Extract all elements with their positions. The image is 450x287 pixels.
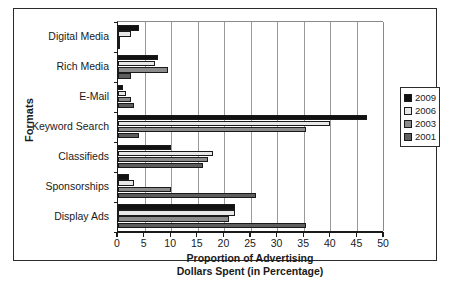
legend-label: 2001 [415,131,436,142]
bar [118,55,158,60]
bar [118,223,306,228]
x-axis-tick-label: 35 [297,237,309,249]
bar [118,187,171,192]
bar [118,91,126,96]
category-label: E-Mail [34,81,113,111]
category-label: Digital Media [34,21,113,51]
x-axis-tick-label: 30 [271,237,283,249]
bar [118,115,367,120]
bar [118,121,330,126]
legend: 2009200620032001 [400,87,440,147]
x-axis-title: Proportion of Advertising Dollars Spent … [117,252,383,277]
x-axis-tick-labels: 05101520253035404550 [117,237,383,251]
bar-group [118,82,383,112]
bar [118,37,120,42]
category-label: Rich Media [34,51,113,81]
x-axis-tick-label: 25 [244,237,256,249]
bar [118,31,131,36]
bar [118,61,155,66]
x-axis-tick-label: 40 [324,237,336,249]
legend-swatch-icon [404,107,412,115]
bar [118,174,129,179]
bar [118,73,131,78]
bar [118,25,139,30]
x-axis-tick-label: 5 [141,237,147,249]
legend-item: 2003 [404,117,436,130]
legend-item: 2001 [404,130,436,143]
bar [118,127,306,132]
legend-swatch-icon [404,133,412,141]
bar [118,204,235,209]
bar-group [118,171,383,201]
category-axis-labels: Digital MediaRich MediaE-MailKeyword Sea… [34,21,113,231]
category-label: Display Ads [34,201,113,231]
x-axis-tick-label: 10 [164,237,176,249]
bar [118,67,168,72]
gridline [383,22,384,231]
bar [118,157,208,162]
legend-swatch-icon [404,120,412,128]
bar [118,133,139,138]
x-axis-tick-label: 15 [191,237,203,249]
bar-groups [118,22,383,231]
bar [118,97,131,102]
bar-group [118,201,383,231]
bar-group [118,52,383,82]
category-label: Keyword Search [34,111,113,141]
x-axis-title-line1: Proportion of Advertising [117,252,383,265]
plot-area [117,21,383,231]
x-axis-tick-label: 20 [218,237,230,249]
category-label: Sponsorships [34,171,113,201]
bar [118,151,213,156]
x-axis-title-line2: Dollars Spent (in Percentage) [117,265,383,278]
bar-group [118,22,383,52]
legend-label: 2003 [415,118,436,129]
bar-group [118,112,383,142]
legend-label: 2009 [415,92,436,103]
bar [118,145,171,150]
bar [118,210,235,215]
bar [118,180,134,185]
legend-swatch-icon [404,94,412,102]
bar [118,216,229,221]
category-label: Classifieds [34,141,113,171]
bar [118,163,203,168]
x-axis-tick-label: 0 [114,237,120,249]
x-axis-tick-label: 50 [377,237,389,249]
x-axis-tick-label: 45 [351,237,363,249]
bar-group [118,141,383,171]
bar [118,43,120,48]
bar [118,193,256,198]
legend-item: 2009 [404,91,436,104]
legend-item: 2006 [404,104,436,117]
bar [118,85,123,90]
legend-label: 2006 [415,105,436,116]
bar [118,103,134,108]
chart-figure: Formats Digital MediaRich MediaE-MailKey… [13,8,437,261]
